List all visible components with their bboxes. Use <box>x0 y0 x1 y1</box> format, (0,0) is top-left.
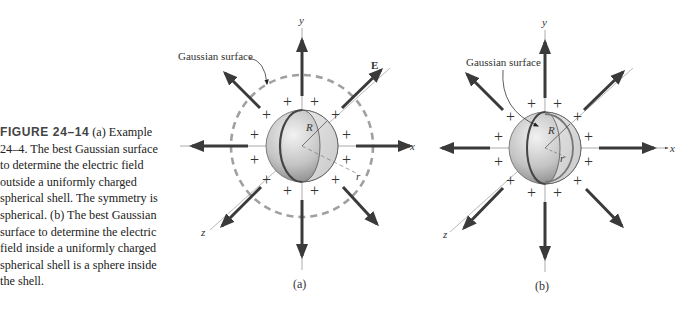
charge-plus: + <box>494 153 503 170</box>
y-axis-label: y <box>298 14 304 26</box>
field-arrow-downright <box>343 187 377 224</box>
charge-plus: + <box>527 184 536 201</box>
z-axis-label: z <box>200 226 206 238</box>
charge-plus: + <box>331 171 340 188</box>
y-axis-label: y <box>541 16 547 28</box>
charge-plus: + <box>573 108 582 125</box>
panel-b: y x z R r Gaussian surface + + + + + <box>440 16 675 293</box>
field-arrow-upleft <box>467 74 503 110</box>
radius-R-label: R <box>547 124 555 136</box>
charge-plus: + <box>553 184 562 201</box>
panel-a: y x z E R r Gaussian surface + <box>178 14 415 291</box>
field-label-E: E <box>371 59 378 71</box>
field-arrow-upright <box>342 70 381 108</box>
charge-plus: + <box>331 106 340 123</box>
panel-b-label: (b) <box>535 279 549 293</box>
charge-plus: + <box>250 151 259 168</box>
x-axis-label: x <box>669 142 675 154</box>
charge-plus: + <box>494 128 503 145</box>
charge-plus: + <box>250 126 259 143</box>
field-arrow-downleft <box>464 188 503 228</box>
gaussian-surface-label: Gaussian surface <box>466 56 541 68</box>
figure-diagrams: y x z E R r Gaussian surface + <box>0 0 691 313</box>
charge-plus: + <box>283 182 292 199</box>
radius-R-label: R <box>305 121 313 133</box>
field-arrow-downright <box>586 189 622 226</box>
charge-plus: + <box>310 93 319 110</box>
charge-plus: + <box>506 108 515 125</box>
radius-r-label: r <box>560 152 565 164</box>
charge-plus: + <box>342 126 351 143</box>
z-axis-label: z <box>442 228 448 240</box>
field-arrow-upright <box>584 72 623 110</box>
charge-plus: + <box>573 172 582 189</box>
charge-plus: + <box>584 128 593 145</box>
field-arrow-downleft <box>222 187 261 226</box>
charge-plus: + <box>553 95 562 112</box>
panel-a-label: (a) <box>293 277 306 291</box>
charge-plus: + <box>262 106 271 123</box>
field-arrow-upleft <box>225 73 260 108</box>
radius-r-label: r <box>356 170 361 182</box>
charge-plus: + <box>342 151 351 168</box>
charge-plus: + <box>283 93 292 110</box>
charge-plus: + <box>310 182 319 199</box>
charge-plus: + <box>584 153 593 170</box>
gaussian-surface-label: Gaussian surface <box>178 50 253 62</box>
charge-plus: + <box>506 172 515 189</box>
charge-plus: + <box>262 171 271 188</box>
charge-plus: + <box>527 95 536 112</box>
